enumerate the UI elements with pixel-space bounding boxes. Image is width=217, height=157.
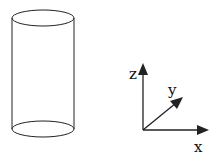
cylinder-top-ellipse (12, 10, 74, 26)
y-axis-label: y (168, 83, 176, 98)
z-arrowhead (138, 63, 148, 75)
x-axis-label: x (194, 140, 202, 155)
diagram-canvas: z y x (0, 0, 217, 157)
x-arrowhead (197, 125, 209, 135)
cylinder-figure (0, 0, 217, 157)
y-axis (143, 103, 176, 130)
cylinder-bottom-ellipse (12, 121, 74, 137)
z-axis-label: z (129, 67, 137, 82)
axes-icon (138, 63, 209, 135)
